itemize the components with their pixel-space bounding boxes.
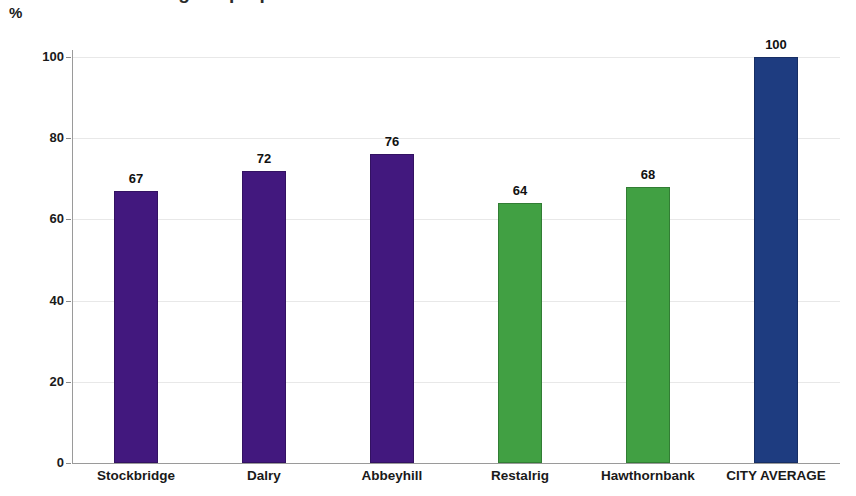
bar-group: 6772766468100 bbox=[0, 0, 856, 463]
x-axis-label: CITY AVERAGE bbox=[696, 468, 856, 483]
bar[interactable]: 72 bbox=[242, 0, 286, 463]
y-tick-mark-60 bbox=[66, 219, 71, 220]
x-axis-line bbox=[72, 463, 840, 464]
bar-value-label: 100 bbox=[740, 37, 812, 52]
bar-value-label: 76 bbox=[356, 134, 428, 149]
bar[interactable]: 67 bbox=[114, 0, 158, 463]
bar-rect[interactable] bbox=[754, 57, 798, 463]
y-tick-mark-40 bbox=[66, 301, 71, 302]
bar-rect[interactable] bbox=[114, 191, 158, 463]
bar[interactable]: 100 bbox=[754, 0, 798, 463]
bar[interactable]: 68 bbox=[626, 0, 670, 463]
bar-value-label: 72 bbox=[228, 151, 300, 166]
y-tick-mark-20 bbox=[66, 382, 71, 383]
bar-value-label: 68 bbox=[612, 167, 684, 182]
y-tick-mark-0 bbox=[66, 463, 71, 464]
bar-value-label: 64 bbox=[484, 183, 556, 198]
bar-value-label: 67 bbox=[100, 171, 172, 186]
x-axis-labels: StockbridgeDalryAbbeyhillRestalrigHawtho… bbox=[0, 468, 856, 496]
bar-rect[interactable] bbox=[498, 203, 542, 463]
bar-rect[interactable] bbox=[242, 171, 286, 463]
y-tick-mark-80 bbox=[66, 138, 71, 139]
y-tick-mark-100 bbox=[66, 57, 71, 58]
bar[interactable]: 64 bbox=[498, 0, 542, 463]
bar-rect[interactable] bbox=[626, 187, 670, 463]
bar-rect[interactable] bbox=[370, 154, 414, 463]
bar[interactable]: 76 bbox=[370, 0, 414, 463]
